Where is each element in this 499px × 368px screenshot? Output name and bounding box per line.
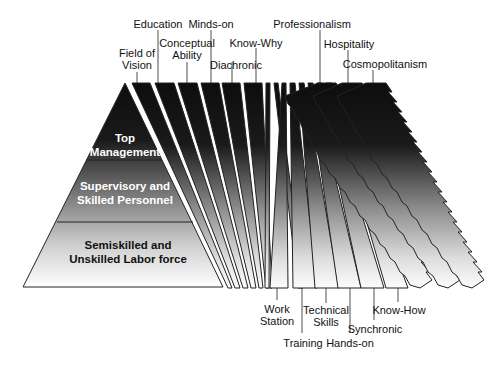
label-minds-on: Minds-on xyxy=(188,18,233,30)
label-work-station-2: Station xyxy=(260,315,294,327)
label-conceptual-ability: Conceptual xyxy=(159,37,215,49)
pyramid-diagram: Top Management Supervisory and Skilled P… xyxy=(0,0,499,368)
label-work-station: Work xyxy=(264,303,290,315)
label-training: Training xyxy=(283,337,322,349)
label-hospitality: Hospitality xyxy=(324,38,375,50)
label-cosmopolitanism: Cosmopolitanism xyxy=(343,58,427,70)
label-field-of-vision-2: Vision xyxy=(122,59,152,71)
tier-label: Top xyxy=(115,132,135,144)
label-field-of-vision: Field of xyxy=(119,47,156,59)
label-know-why: Know-Why xyxy=(229,37,283,49)
tier-label: Skilled Personnel xyxy=(77,194,173,206)
label-technical-skills-2: Skills xyxy=(313,316,339,328)
label-technical-skills: Technical xyxy=(303,304,349,316)
tier-label: Management xyxy=(90,146,160,158)
tier-label: Supervisory and xyxy=(80,180,170,192)
tier-label: Semiskilled and xyxy=(85,239,172,251)
label-know-how: Know-How xyxy=(372,304,425,316)
label-synchronic: Synchronic xyxy=(348,323,403,335)
label-hands-on: Hands-on xyxy=(326,337,374,349)
label-diachronic: Diachronic xyxy=(210,59,262,71)
label-education: Education xyxy=(134,18,183,30)
label-conceptual-ability-2: Ability xyxy=(172,49,202,61)
tier-label: Unskilled Labor force xyxy=(69,253,187,265)
label-professionalism: Professionalism xyxy=(273,18,351,30)
